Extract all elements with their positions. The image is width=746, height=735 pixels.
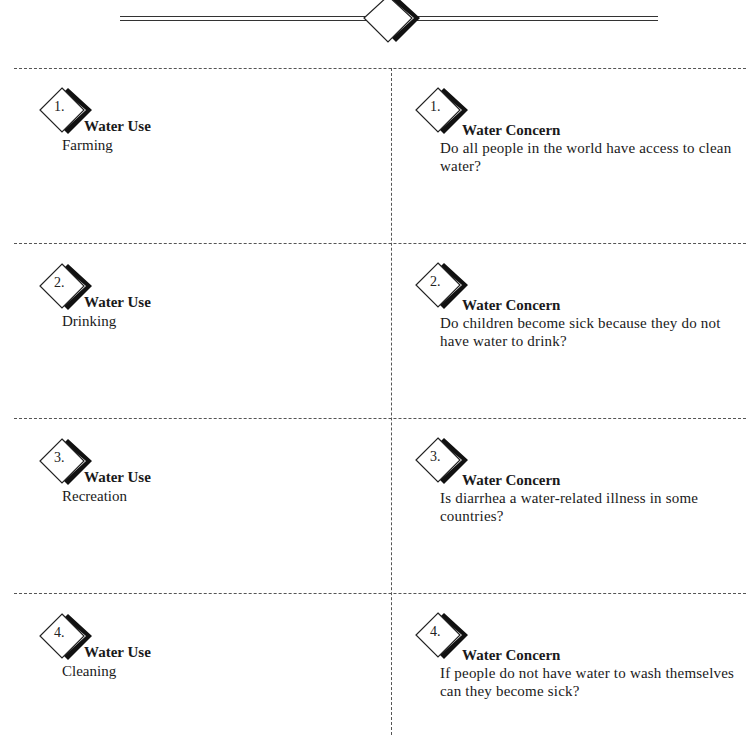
header-rule-left [120, 16, 368, 21]
card-number: 3. [54, 450, 65, 466]
card-number: 2. [54, 275, 65, 291]
card-text: Farming [62, 136, 113, 154]
water-concern-card-1: 1. Water Concern Do all people in the wo… [414, 86, 734, 256]
card-title: Water Use [84, 118, 151, 135]
card-title: Water Concern [462, 647, 560, 664]
header-rule-right [416, 16, 658, 21]
card-text: Drinking [62, 312, 116, 330]
water-concern-card-3: 3. Water Concern Is diarrhea a water-rel… [414, 436, 734, 606]
card-number: 1. [54, 99, 65, 115]
card-title: Water Concern [462, 297, 560, 314]
header-diamond-icon [362, 0, 422, 46]
water-use-card-3: 3. Water Use Recreation [38, 437, 378, 607]
cut-line-horizontal-1 [14, 68, 746, 69]
water-concern-card-2: 2. Water Concern Do children become sick… [414, 261, 734, 431]
card-title: Water Use [84, 294, 151, 311]
card-number: 4. [430, 624, 441, 640]
card-number: 3. [430, 449, 441, 465]
card-number: 1. [430, 99, 441, 115]
card-number: 4. [54, 625, 65, 641]
card-title: Water Use [84, 644, 151, 661]
cut-line-vertical [391, 68, 392, 735]
card-text: Is diarrhea a water-related illness in s… [440, 489, 740, 525]
water-concern-card-4: 4. Water Concern If people do not have w… [414, 611, 734, 735]
card-text: Do children become sick because they do … [440, 314, 740, 350]
card-text: Do all people in the world have access t… [440, 139, 740, 175]
water-use-card-2: 2. Water Use Drinking [38, 262, 378, 432]
card-text: If people do not have water to wash them… [440, 664, 740, 700]
card-title: Water Concern [462, 472, 560, 489]
card-text: Cleaning [62, 662, 116, 680]
water-use-card-1: 1. Water Use Farming [38, 86, 378, 256]
card-text: Recreation [62, 487, 127, 505]
water-use-card-4: 4. Water Use Cleaning [38, 612, 378, 735]
card-number: 2. [430, 274, 441, 290]
card-title: Water Concern [462, 122, 560, 139]
card-title: Water Use [84, 469, 151, 486]
